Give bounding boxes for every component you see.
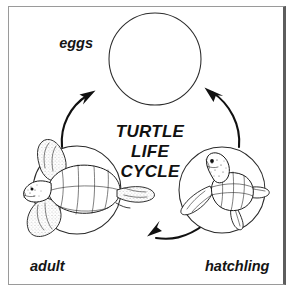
title-line-cycle: CYCLE [120,162,179,181]
title-line-life: LIFE [131,142,169,161]
arrow-adult-to-eggs [62,91,96,148]
title-line-turtle: TURTLE [116,122,185,141]
stage-label-eggs: eggs [59,35,93,51]
stage-label-adult: adult [30,258,66,274]
center-title: TURTLE LIFE CYCLE [116,122,185,181]
stage-hatchling: hatchling [179,147,270,274]
life-cycle-diagram: TURTLE LIFE CYCLE [0,0,298,295]
turtle-life-cycle-figure: TURTLE LIFE CYCLE [0,0,298,295]
stage-label-hatchling: hatchling [205,258,270,274]
stage-eggs: eggs [59,8,201,112]
arrow-eggs-to-hatchling [205,88,240,148]
eggs-circle-outline [109,13,201,105]
